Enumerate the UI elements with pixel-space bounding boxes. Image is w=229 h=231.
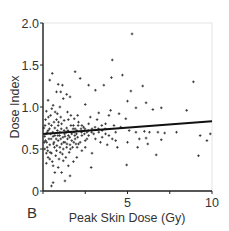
- data-point: [52, 165, 55, 168]
- data-point: [45, 110, 48, 113]
- data-point: [108, 134, 111, 137]
- data-point: [94, 138, 97, 141]
- data-point: [71, 146, 74, 149]
- x-axis-title: Peak Skin Dose (Gy): [69, 211, 186, 225]
- y-axis-title: Dose Index: [8, 75, 22, 139]
- scatter-chart: 00.51.01.52.0 510 Dose Index Peak Skin D…: [0, 0, 229, 231]
- data-point: [49, 114, 52, 117]
- data-point: [77, 124, 80, 127]
- data-point: [90, 166, 93, 169]
- data-point: [108, 114, 111, 117]
- data-point: [62, 97, 65, 100]
- data-point: [59, 106, 62, 109]
- data-point: [143, 130, 146, 133]
- data-point: [109, 109, 112, 112]
- data-point: [141, 85, 144, 88]
- data-point: [57, 83, 60, 86]
- data-point: [160, 138, 163, 141]
- data-point: [57, 121, 60, 124]
- data-point: [65, 146, 68, 149]
- data-point: [68, 151, 71, 154]
- data-point: [104, 123, 107, 126]
- data-point: [209, 133, 212, 136]
- data-point: [47, 116, 50, 119]
- data-point: [51, 72, 54, 75]
- data-point: [47, 99, 50, 102]
- data-point: [65, 127, 68, 130]
- data-point: [97, 112, 100, 115]
- data-point: [99, 141, 102, 144]
- data-point: [53, 146, 56, 149]
- data-point: [55, 91, 58, 94]
- data-point: [44, 124, 47, 127]
- data-point: [60, 123, 63, 126]
- data-point: [53, 121, 56, 124]
- data-point: [66, 138, 69, 141]
- data-point: [128, 129, 131, 132]
- data-point: [84, 103, 87, 106]
- data-point: [192, 81, 195, 84]
- data-point: [157, 131, 160, 134]
- data-point: [43, 135, 46, 138]
- data-point: [72, 128, 75, 131]
- x-tick-label: 5: [124, 196, 131, 210]
- data-point: [59, 116, 62, 119]
- data-point: [50, 107, 53, 110]
- data-point: [81, 134, 84, 137]
- data-point: [125, 117, 128, 120]
- data-point: [126, 141, 129, 144]
- data-point: [148, 131, 151, 134]
- data-point: [114, 131, 117, 134]
- data-point: [67, 118, 70, 121]
- data-point: [206, 139, 209, 142]
- data-point: [131, 33, 134, 36]
- data-point: [55, 138, 58, 141]
- scatter-points: [43, 33, 212, 188]
- data-point: [66, 143, 69, 146]
- data-point: [145, 137, 148, 140]
- data-point: [104, 133, 107, 136]
- data-point: [75, 143, 78, 146]
- data-point: [57, 139, 60, 142]
- data-point: [111, 59, 114, 62]
- data-point: [58, 158, 61, 161]
- y-tick-label: 0: [32, 185, 39, 199]
- data-point: [84, 146, 87, 149]
- data-point: [50, 185, 53, 188]
- data-point: [92, 133, 95, 136]
- data-point: [197, 154, 200, 157]
- data-point: [87, 134, 90, 137]
- data-point: [70, 124, 73, 127]
- data-point: [126, 100, 129, 103]
- data-point: [130, 90, 133, 93]
- data-point: [91, 152, 94, 155]
- data-point: [116, 146, 119, 149]
- data-point: [63, 119, 66, 122]
- data-point: [59, 151, 62, 154]
- data-point: [62, 159, 65, 162]
- y-ticks: 00.51.01.52.0: [22, 17, 43, 199]
- data-point: [67, 165, 70, 168]
- data-point: [77, 143, 80, 146]
- data-point: [145, 102, 148, 105]
- data-point: [76, 114, 79, 117]
- data-point: [60, 128, 63, 131]
- regression-line: [43, 121, 212, 134]
- data-point: [125, 164, 128, 167]
- data-point: [138, 138, 141, 141]
- data-point: [60, 143, 63, 146]
- data-point: [76, 156, 79, 159]
- panel-label: B: [27, 204, 37, 221]
- data-point: [59, 146, 62, 149]
- data-point: [74, 70, 77, 73]
- data-point: [61, 84, 64, 87]
- data-point: [50, 124, 53, 127]
- data-point: [60, 171, 63, 174]
- data-point: [52, 104, 55, 107]
- data-point: [175, 131, 178, 134]
- data-point: [87, 123, 90, 126]
- data-point: [199, 134, 202, 137]
- data-point: [106, 144, 109, 147]
- data-point: [74, 138, 77, 141]
- data-point: [46, 146, 49, 149]
